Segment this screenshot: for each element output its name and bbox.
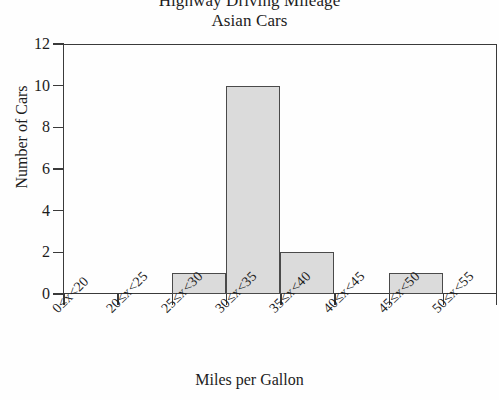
y-axis-tick-label: 10 — [20, 78, 50, 94]
y-axis-tick-label: 2 — [20, 244, 50, 260]
y-axis-tick-label: 8 — [20, 119, 50, 135]
y-axis-tick — [53, 168, 64, 170]
x-axis-tick — [496, 294, 498, 305]
chart-title-block: Highway Driving Mileage Asian Cars — [0, 0, 499, 31]
y-axis-tick — [53, 43, 64, 45]
y-axis-tick — [53, 85, 64, 87]
chart-title: Highway Driving Mileage — [0, 0, 499, 11]
y-axis-tick — [53, 252, 64, 254]
y-axis-tick — [53, 127, 64, 129]
y-axis-title: Number of Cars — [13, 47, 31, 227]
bar — [226, 86, 280, 294]
y-axis-tick-label: 0 — [20, 286, 50, 302]
x-axis-title: Miles per Gallon — [0, 371, 499, 389]
y-axis-tick-label: 12 — [20, 36, 50, 52]
y-axis-tick — [53, 210, 64, 212]
y-axis-tick-label: 4 — [20, 203, 50, 219]
bars-layer — [63, 44, 497, 294]
chart-subtitle: Asian Cars — [0, 11, 499, 31]
y-axis-tick-label: 6 — [20, 161, 50, 177]
histogram-figure: Highway Driving Mileage Asian Cars Numbe… — [0, 0, 499, 400]
